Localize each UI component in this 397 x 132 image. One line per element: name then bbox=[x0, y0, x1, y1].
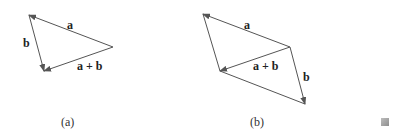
vector-b-arrow bbox=[29, 15, 44, 71]
caption-b: (b) bbox=[250, 116, 264, 128]
label-a: a bbox=[67, 19, 73, 31]
parallelogram-edge-left bbox=[203, 14, 220, 71]
label-b: b bbox=[303, 71, 310, 83]
vector-addition-figure: a b a + b (a) a a + b b (b) bbox=[0, 0, 397, 132]
label-a: a bbox=[244, 19, 250, 31]
label-b: b bbox=[23, 37, 30, 49]
label-sum: a + b bbox=[253, 60, 279, 72]
figure-canvas bbox=[0, 0, 397, 132]
label-sum: a + b bbox=[77, 60, 103, 72]
parallelogram-edge-bottom bbox=[220, 71, 305, 104]
caption-a: (a) bbox=[61, 116, 74, 128]
qed-box-icon bbox=[381, 118, 389, 126]
